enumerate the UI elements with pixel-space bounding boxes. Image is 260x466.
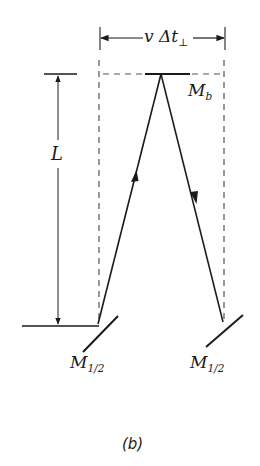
label-v-delta-t: v Δt⊥ (144, 28, 188, 45)
label-v-delta-t-main: v Δt (144, 26, 178, 46)
mirror-bl-sub: 1/2 (87, 362, 104, 374)
mirror-bl-label: M (70, 352, 87, 372)
label-mirror-bottom-left: M1/2 (70, 354, 104, 371)
arrowhead-up-icon (131, 170, 139, 182)
mirror-top-sub: b (205, 90, 212, 102)
label-v-delta-t-sub: ⊥ (178, 36, 188, 48)
label-L-text: L (51, 143, 63, 164)
mirror-bottom-right (206, 315, 243, 347)
label-L: L (51, 145, 63, 163)
mirror-top-label: M (188, 80, 205, 100)
diagram-canvas (0, 0, 260, 466)
label-mirror-top: Mb (188, 82, 212, 99)
mirror-br-sub: 1/2 (207, 362, 224, 374)
mirror-bottom-left (83, 316, 118, 352)
panel-label: (b) (122, 437, 143, 452)
mirror-br-label: M (190, 352, 207, 372)
light-ray-down (161, 74, 223, 322)
label-mirror-bottom-right: M1/2 (190, 354, 224, 371)
panel-label-text: (b) (122, 435, 143, 453)
dimension-left (22, 74, 99, 326)
light-ray-up (98, 74, 161, 324)
